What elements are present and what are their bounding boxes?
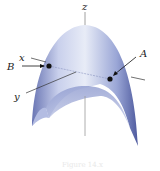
y-axis-label: y xyxy=(13,91,20,102)
paraboloid-diagram: z x y B A Figure 14.x xyxy=(0,0,160,171)
point-b-label: B xyxy=(6,61,14,72)
x-axis-label: x xyxy=(19,52,25,63)
x-axis xyxy=(31,58,46,62)
point-a xyxy=(107,76,112,81)
x-axis-right-stub xyxy=(131,77,145,80)
point-b xyxy=(46,63,51,68)
z-axis-label: z xyxy=(81,1,88,12)
point-a-label: A xyxy=(139,48,147,59)
figure-caption: Figure 14.x xyxy=(62,161,103,169)
